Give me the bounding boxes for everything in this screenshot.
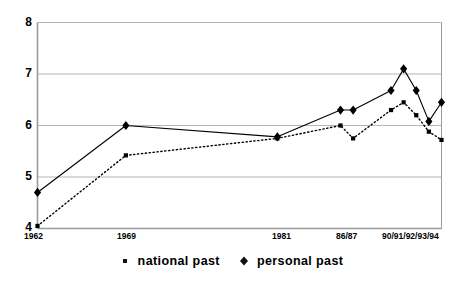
chart-container: 8 7 6 5 4 1962 1969 1981 86/87 90/91/92/… <box>0 0 462 287</box>
series-markers <box>34 64 445 228</box>
chart-legend: national past personal past <box>0 255 462 268</box>
legend-label-personal-past: personal past <box>257 255 343 268</box>
data-point-personal-past-1986 <box>337 105 344 114</box>
legend-entry-national-past: national past <box>119 255 220 268</box>
series-line-national-past <box>38 102 442 226</box>
data-point-national-past-1962 <box>35 224 39 228</box>
square-marker-icon <box>119 255 131 267</box>
xtick-label-90-94: 90/91/92/93/94 <box>382 232 439 241</box>
gridlines <box>38 23 442 229</box>
data-point-personal-past-1962 <box>34 188 41 197</box>
data-point-national-past-1969 <box>124 153 128 157</box>
series-lines <box>38 69 442 226</box>
series-line-personal-past <box>38 69 442 193</box>
xtick-label-1981: 1981 <box>272 232 291 241</box>
data-point-national-past-1986 <box>338 123 342 127</box>
data-point-national-past-1993 <box>427 130 431 134</box>
data-point-personal-past-1969 <box>122 121 129 130</box>
xtick-label-1962: 1962 <box>24 232 43 241</box>
diamond-marker-icon <box>238 255 250 267</box>
data-point-national-past-1987 <box>351 136 355 140</box>
xtick-label-86-87: 86/87 <box>336 232 357 241</box>
ytick-label-5: 5 <box>8 170 32 182</box>
data-point-national-past-1992 <box>414 113 418 117</box>
xtick-label-1969: 1969 <box>117 232 136 241</box>
data-point-personal-past-1981 <box>274 132 281 141</box>
data-point-personal-past-1987 <box>350 105 357 114</box>
chart-plot-area <box>0 0 462 287</box>
ytick-label-7: 7 <box>8 67 32 79</box>
legend-entry-personal-past: personal past <box>238 255 343 268</box>
data-point-national-past-1990 <box>389 108 393 112</box>
legend-label-national-past: national past <box>138 255 220 268</box>
ytick-label-6: 6 <box>8 119 32 131</box>
ytick-label-8: 8 <box>8 16 32 28</box>
data-point-national-past-1991 <box>402 100 406 104</box>
data-point-national-past-1994 <box>439 138 443 142</box>
